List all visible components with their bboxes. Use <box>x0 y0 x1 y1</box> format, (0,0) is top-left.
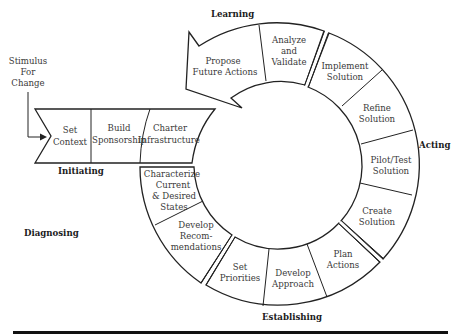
step-text: and <box>281 46 298 56</box>
stimulus-for-change: Stimulus For Change <box>9 56 47 141</box>
step-text: Charter <box>153 123 188 133</box>
stimulus-arrow-head-icon <box>40 134 47 141</box>
step-text: Analyze <box>271 35 306 45</box>
step-text: Priorities <box>220 273 260 283</box>
step-text: Recom- <box>180 231 213 241</box>
step-text: Build <box>108 123 131 133</box>
step-text: Current <box>156 180 191 190</box>
initiating-banner: Set Context Build Sponsorship Charter In… <box>35 109 215 176</box>
step-text: Infrastructure <box>138 135 200 145</box>
step-text: Validate <box>270 57 306 67</box>
step-text: Implement <box>321 61 369 71</box>
phase-label-diagnosing: Diagnosing <box>24 228 79 238</box>
step-implement-solution: Implement Solution <box>321 61 369 82</box>
phase-label-acting: Acting <box>418 140 450 150</box>
step-text: Solution <box>327 72 364 82</box>
step-pilot-test-solution: Pilot/Test Solution <box>371 155 412 176</box>
step-text: Solution <box>359 217 396 227</box>
step-text: Set <box>233 262 248 272</box>
phase-label-establishing: Establishing <box>262 312 322 322</box>
step-refine-solution: Refine Solution <box>359 103 396 124</box>
step-text: mendations <box>171 242 222 252</box>
step-text: States <box>160 202 187 212</box>
step-text: Propose <box>205 56 240 66</box>
phase-label-learning: Learning <box>211 9 254 19</box>
step-text: Refine <box>363 103 391 113</box>
stimulus-line-2: For <box>21 67 37 77</box>
stimulus-line-3: Change <box>11 78 44 88</box>
learning-phase: Analyze and Validate Propose Future Acti… <box>186 9 324 108</box>
step-text: Solution <box>359 114 396 124</box>
step-text: Future Actions <box>193 67 258 77</box>
step-text: Develop <box>275 268 311 278</box>
acting-phase: Create Solution Pilot/Test Solution Refi… <box>308 33 450 259</box>
step-develop-approach: Develop Approach <box>271 268 314 289</box>
phase-label-initiating: Initiating <box>58 166 104 176</box>
step-text: Pilot/Test <box>371 155 412 165</box>
step-text: Solution <box>373 166 410 176</box>
step-text: & Desired <box>152 191 197 201</box>
step-text: Create <box>362 206 391 216</box>
bottom-rule <box>13 331 448 334</box>
step-create-solution: Create Solution <box>359 206 396 227</box>
step-text: Plan <box>333 249 353 259</box>
stimulus-line-1: Stimulus <box>9 56 47 66</box>
step-text: Characterize <box>144 169 200 179</box>
step-text: Approach <box>271 279 314 289</box>
step-text: Actions <box>326 260 359 270</box>
step-text: Set <box>63 125 78 135</box>
ideal-cycle-diagram: Stimulus For Change Set Context Build Sp… <box>0 0 462 335</box>
diagnosing-phase: Characterize Current & Desired States De… <box>24 167 232 283</box>
step-text: Develop <box>178 220 214 230</box>
step-text: Context <box>53 137 88 147</box>
